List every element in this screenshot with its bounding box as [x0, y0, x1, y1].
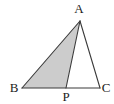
- vertex-label-a: A: [74, 1, 84, 16]
- triangle-diagram-svg: A B C P: [0, 0, 114, 104]
- vertex-label-p: P: [62, 89, 69, 104]
- geometry-figure: A B C P: [0, 0, 114, 104]
- vertex-label-c: C: [102, 80, 111, 95]
- vertex-label-b: B: [10, 80, 19, 95]
